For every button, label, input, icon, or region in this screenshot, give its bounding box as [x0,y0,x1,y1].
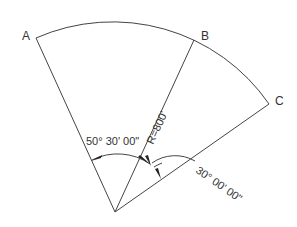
arrowhead-A-side [91,155,102,161]
label-point-B: B [201,29,209,43]
label-angle-AOB: 50° 30' 00" [86,135,139,147]
sector-diagram: A B C R=800' 50° 30' 00" 30° 00' 00" [0,0,297,227]
angle-arc-BOC-leader [152,156,195,163]
arrowhead-BOC-right [155,168,161,179]
radius-OA [36,38,115,212]
arc-ABC [36,22,269,104]
angle-arc-BOC [154,163,162,167]
label-angle-BOC: 30° 00' 00" [194,164,245,204]
label-point-A: A [22,29,30,43]
label-radius: R=800' [144,109,170,146]
label-point-C: C [275,94,284,108]
